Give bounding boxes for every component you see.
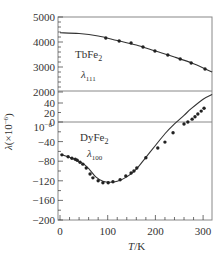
dyfe2-marker (101, 181, 104, 184)
y-tick-label: 3000 (33, 61, 56, 73)
tbfe2-marker (104, 36, 107, 39)
dyfe2-marker (85, 166, 88, 169)
dyfe2-marker (199, 109, 202, 112)
dyfe2-marker (106, 181, 109, 184)
y-break-label: 10−6 (34, 121, 53, 133)
y-axis-title: λ(×10−6) (2, 113, 15, 151)
tbfe2-marker (117, 39, 120, 42)
dyfe2-marker (135, 166, 138, 169)
y-tick-label: 40 (44, 97, 56, 109)
dyfe2-marker (156, 146, 159, 149)
y-tick-label: 4000 (33, 36, 56, 48)
dyfe2-marker (70, 157, 73, 160)
dyfe2-marker (60, 153, 63, 156)
y-tick-label: 5000 (33, 11, 56, 23)
x-tick-label: 0 (57, 225, 63, 237)
dyfe2-marker (193, 115, 196, 118)
dyfe2-marker (182, 122, 185, 125)
dyfe2-label: DyFe2 (80, 131, 108, 146)
x-axis-title: T/K (128, 240, 145, 252)
dyfe2-marker (118, 178, 121, 181)
x-tick-label: 200 (147, 225, 164, 237)
dyfe2-marker (190, 117, 193, 120)
dyfe2-marker (129, 171, 132, 174)
dyfe2-marker (124, 174, 127, 177)
dyfe2-marker (96, 179, 99, 182)
tbfe2-lambda-label: λ111 (80, 68, 96, 83)
dyfe2-marker (132, 169, 135, 172)
dyfe2-marker (66, 155, 69, 158)
dyfe2-marker (81, 162, 84, 165)
x-tick-label: 300 (195, 225, 212, 237)
y-tick-label: −160 (32, 194, 55, 206)
dyfe2-marker (91, 176, 94, 179)
tbfe2-marker (153, 49, 156, 52)
tbfe2-marker (189, 61, 192, 64)
tbfe2-marker (179, 57, 182, 60)
x-tick-label: 100 (99, 225, 116, 237)
dyfe2-marker (111, 180, 114, 183)
tbfe2-marker (129, 41, 132, 44)
dyfe2-lambda-label: λ100 (86, 147, 103, 162)
tbfe2-label: TbFe2 (75, 48, 102, 63)
dyfe2-marker (75, 159, 78, 162)
dyfe2-marker (186, 120, 189, 123)
dyfe2-marker (163, 140, 166, 143)
chart-root: 2000300040005000−200−160−120−80−40020401… (0, 0, 220, 258)
dyfe2-marker (171, 131, 174, 134)
dyfe2-marker (144, 156, 147, 159)
y-tick-label: −80 (38, 155, 56, 167)
dyfe2-marker (202, 107, 205, 110)
dyfe2-marker (196, 112, 199, 115)
tbfe2-marker (166, 53, 169, 56)
tbfe2-marker (203, 67, 206, 70)
y-tick-label: −200 (32, 214, 55, 226)
dyfe2-marker (88, 172, 91, 175)
y-tick-label: −120 (32, 175, 55, 187)
y-tick-label: −40 (38, 136, 56, 148)
dyfe2-marker (78, 160, 81, 163)
tbfe2-marker (141, 45, 144, 48)
